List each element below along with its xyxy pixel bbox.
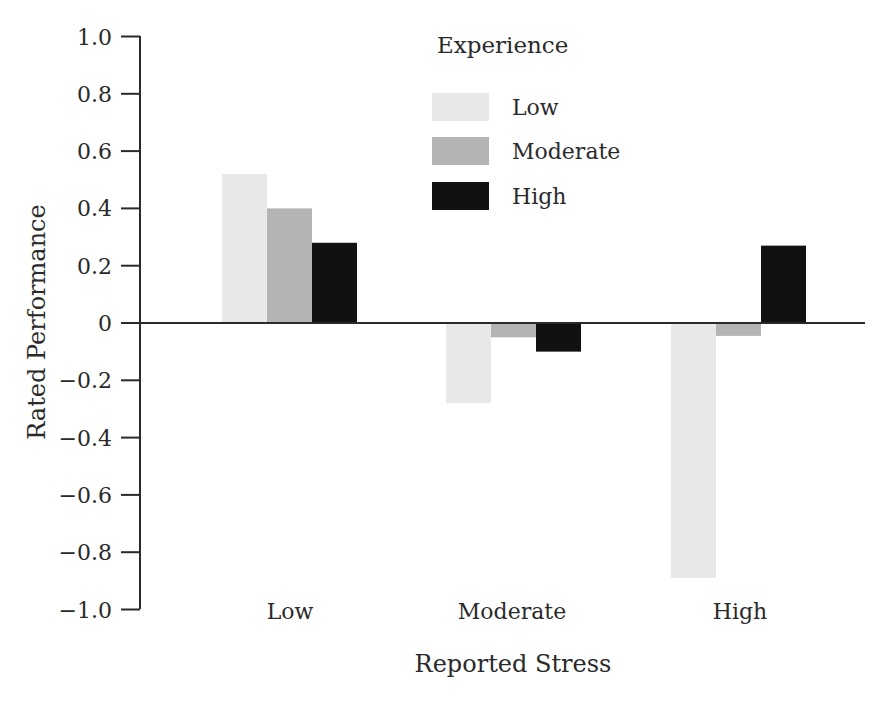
legend-label: Low bbox=[512, 95, 559, 120]
legend-swatch bbox=[432, 182, 489, 210]
legend-label: Moderate bbox=[512, 139, 620, 164]
y-tick-label: 0.6 bbox=[77, 139, 112, 164]
legend-swatch bbox=[432, 137, 489, 165]
y-tick-label: −1.0 bbox=[59, 598, 112, 623]
y-axis-title: Rated Performance bbox=[23, 204, 51, 440]
legend-entry-moderate: Moderate bbox=[432, 137, 620, 165]
legend: Experience LowModerateHigh bbox=[432, 32, 620, 210]
x-category-label: Low bbox=[267, 599, 314, 624]
y-tick-label: 0.8 bbox=[77, 82, 112, 107]
y-tick-label: 0 bbox=[98, 311, 112, 336]
y-tick-label: −0.6 bbox=[59, 483, 112, 508]
x-category-labels: LowModerateHigh bbox=[267, 599, 768, 624]
legend-entry-high: High bbox=[432, 182, 566, 210]
legend-label: High bbox=[512, 184, 566, 209]
bar-high-stress-low-experience bbox=[671, 323, 716, 578]
y-tick-label: 0.2 bbox=[77, 254, 112, 279]
x-axis-title: Reported Stress bbox=[415, 650, 612, 678]
bar-moderate-stress-low-experience bbox=[446, 323, 491, 403]
y-tick-label: −0.8 bbox=[59, 540, 112, 565]
y-tick-label: 1.0 bbox=[77, 25, 112, 50]
legend-swatch bbox=[432, 93, 489, 121]
bar-low-stress-high-experience bbox=[312, 243, 357, 323]
y-tick-label: −0.2 bbox=[59, 368, 112, 393]
legend-entry-low: Low bbox=[432, 93, 559, 121]
legend-title: Experience bbox=[437, 32, 568, 58]
bar-high-stress-high-experience bbox=[761, 246, 806, 323]
x-category-label: Moderate bbox=[458, 599, 566, 624]
x-category-label: High bbox=[713, 599, 767, 624]
bar-chart: 1.00.80.60.40.20−0.2−0.4−0.6−0.8−1.0 Low… bbox=[0, 0, 885, 708]
bar-low-stress-moderate-experience bbox=[267, 208, 312, 323]
y-tick-label: 0.4 bbox=[77, 196, 112, 221]
y-axis: 1.00.80.60.40.20−0.2−0.4−0.6−0.8−1.0 bbox=[59, 25, 140, 623]
bar-moderate-stress-moderate-experience bbox=[491, 323, 536, 337]
bar-high-stress-moderate-experience bbox=[716, 323, 761, 336]
y-tick-label: −0.4 bbox=[59, 426, 112, 451]
bar-low-stress-low-experience bbox=[222, 174, 267, 323]
bar-moderate-stress-high-experience bbox=[536, 323, 581, 352]
bars bbox=[222, 174, 806, 578]
